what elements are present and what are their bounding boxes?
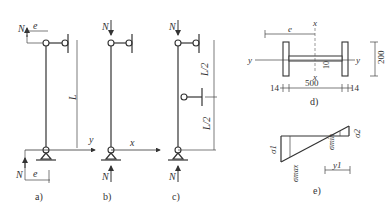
force-label-top: N xyxy=(168,21,177,32)
caption-d: d) xyxy=(310,96,318,108)
web-thickness-label: 10 xyxy=(322,61,331,69)
y1-label: y1 xyxy=(332,160,342,170)
sigma1-label: σ1 xyxy=(268,145,278,154)
eccentricity-label-bottom: e xyxy=(33,168,38,179)
lower-segment-label: L/2 xyxy=(201,117,212,131)
force-label-bottom: N xyxy=(15,169,24,180)
eccentricity-label-top: e xyxy=(33,20,38,31)
panel-c: N L/2 L/2 N c) xyxy=(168,20,217,203)
eccentricity-label: e xyxy=(288,24,292,34)
axis-x-top: x xyxy=(312,18,317,28)
caption-b: b) xyxy=(103,191,111,203)
flange-left-label: 14 xyxy=(270,83,280,93)
axis-x-label: x xyxy=(129,137,135,148)
force-label-top: N xyxy=(17,23,26,34)
length-label: L xyxy=(67,94,78,101)
flange-right-label: 14 xyxy=(350,83,360,93)
panel-e-stress-diagram: σ1 σ2 σmax σmin y1 e) xyxy=(268,126,362,197)
sigma-max-label: σmax xyxy=(291,164,300,182)
sigma2-label: σ2 xyxy=(352,129,362,138)
structural-diagram: N e L y N e a) N x N b) xyxy=(0,0,392,212)
force-label-bottom: N xyxy=(101,171,110,182)
axis-y-right: y xyxy=(355,55,360,65)
caption-e: e) xyxy=(313,185,321,197)
panel-b: N x N b) xyxy=(101,20,160,203)
force-label-bottom: N xyxy=(168,171,177,182)
caption-a: a) xyxy=(35,191,43,203)
panel-d-cross-section: y y x x e 10 200 14 500 14 d) xyxy=(247,18,386,108)
upper-segment-label: L/2 xyxy=(199,63,210,77)
axis-y-left: y xyxy=(247,55,252,65)
panel-a: N e L y N e a) xyxy=(15,20,95,203)
width-label: 500 xyxy=(305,78,319,88)
height-label: 200 xyxy=(376,50,386,64)
force-label-top: N xyxy=(101,21,110,32)
axis-y-label: y xyxy=(88,134,94,145)
caption-c: c) xyxy=(172,191,180,203)
sigma-min-label: σmin xyxy=(327,134,336,150)
